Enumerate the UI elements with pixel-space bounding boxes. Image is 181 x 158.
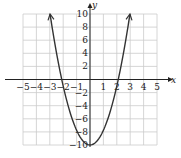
y-tick-label: −10 xyxy=(69,140,88,150)
x-tick-label: −5 xyxy=(16,82,30,92)
y-tick-label: 4 xyxy=(82,48,88,58)
x-tick-label: 3 xyxy=(127,82,133,92)
x-tick-label: 4 xyxy=(141,82,147,92)
y-tick-label: −4 xyxy=(75,101,89,111)
x-tick-labels: −5−4−3−2−112345 xyxy=(16,82,160,92)
y-tick-label: −2 xyxy=(75,88,88,98)
y-axis-label: y xyxy=(91,0,98,10)
y-tick-label: 10 xyxy=(77,9,89,19)
y-tick-label: −6 xyxy=(75,114,89,124)
x-tick-label: 5 xyxy=(154,82,160,92)
parabola-chart: −5−4−3−2−112345 108642−2−4−6−8−10 x y xyxy=(0,0,181,158)
y-tick-label: 8 xyxy=(82,22,88,32)
y-tick-label: 6 xyxy=(82,35,88,45)
x-tick-label: 1 xyxy=(101,82,107,92)
y-tick-label: 2 xyxy=(82,61,88,71)
x-tick-label: −3 xyxy=(43,82,57,92)
axes xyxy=(5,3,173,147)
x-tick-label: −4 xyxy=(30,82,44,92)
x-axis-label: x xyxy=(171,75,176,85)
